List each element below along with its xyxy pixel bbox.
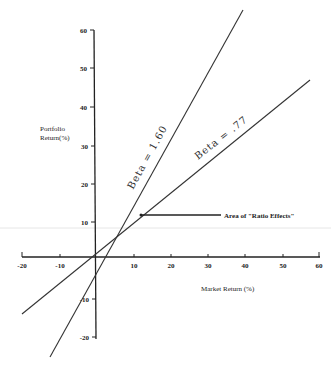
y-tick-label: 60 <box>80 27 88 35</box>
x-tick-label: 40 <box>242 262 250 270</box>
y-axis-title: Portfolio <box>40 125 65 133</box>
beta-1-60-label: Beta = 1.60 <box>125 123 169 191</box>
beta-1-60-line <box>50 10 243 357</box>
ratio-effects-annotation: Area of "Ratio Effects" <box>140 212 295 220</box>
y-tick-label: 30 <box>81 143 89 151</box>
y-tick-label: 20 <box>81 181 89 189</box>
annotation-dot-icon <box>140 214 143 217</box>
x-tick-label: 30 <box>205 262 213 270</box>
beta-chart: -20 -10 10 20 30 40 50 60 60 50 40 30 20… <box>0 0 331 368</box>
y-axis-title: Return(%) <box>40 134 70 142</box>
x-tick-label: -20 <box>17 262 27 270</box>
annotation-label: Area of "Ratio Effects" <box>224 212 295 220</box>
y-tick-label: 50 <box>80 65 88 73</box>
x-tick-label: 20 <box>168 262 176 270</box>
beta-0-77-line <box>22 80 310 314</box>
y-tick-label: -20 <box>80 334 90 342</box>
y-tick-label: 40 <box>80 104 88 112</box>
y-axis: 60 50 40 30 20 10 -10 -20 <box>80 27 96 342</box>
y-tick-label: 10 <box>81 219 89 227</box>
x-axis-title: Market Return (%) <box>201 285 255 293</box>
x-tick-label: 60 <box>316 262 324 270</box>
x-tick-label: 50 <box>280 262 288 270</box>
x-tick-label: -10 <box>55 262 65 270</box>
beta-0-77-label: Beta = .77 <box>192 114 249 162</box>
x-axis: -20 -10 10 20 30 40 50 60 <box>17 252 323 270</box>
x-tick-label: 10 <box>131 262 139 270</box>
